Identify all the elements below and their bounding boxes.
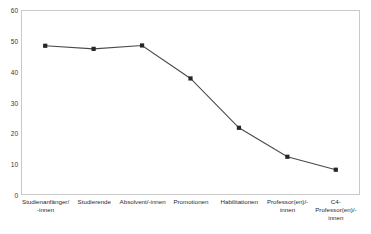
- x-axis-tick-label: Professor(en)/- innen: [263, 198, 311, 234]
- data-point-marker: [92, 47, 96, 51]
- data-point-marker: [285, 155, 289, 159]
- y-axis-tick-label: 20: [11, 130, 18, 137]
- y-axis-tick-label: 0: [14, 192, 18, 199]
- x-axis: Studienanfänger/ -innenStudierendeAbsolv…: [21, 198, 360, 234]
- x-axis-tick-label: Promotionen: [167, 198, 215, 234]
- x-axis-tick-label: Habilitationen: [215, 198, 263, 234]
- x-axis-tick-label: C4- Professor(en)/- innen: [312, 198, 360, 234]
- y-axis-tick-label: 30: [11, 99, 18, 106]
- data-point-marker: [188, 76, 192, 80]
- line-chart: 0102030405060 Studienanfänger/ -innenStu…: [0, 0, 371, 234]
- y-axis-tick-label: 10: [11, 161, 18, 168]
- data-point-marker: [43, 44, 47, 48]
- chart-plot-svg: [21, 10, 360, 195]
- x-axis-tick-label: Studierende: [70, 198, 118, 234]
- y-axis: 0102030405060: [0, 0, 18, 205]
- data-series-line: [45, 45, 336, 169]
- data-point-marker: [140, 43, 144, 47]
- x-axis-tick-label: Absolvent/-innen: [118, 198, 166, 234]
- data-point-marker: [334, 168, 338, 172]
- x-axis-tick-label: Studienanfänger/ -innen: [21, 198, 70, 234]
- y-axis-tick-label: 60: [11, 7, 18, 14]
- y-axis-tick-label: 50: [11, 37, 18, 44]
- y-axis-tick-label: 40: [11, 68, 18, 75]
- data-point-marker: [237, 126, 241, 130]
